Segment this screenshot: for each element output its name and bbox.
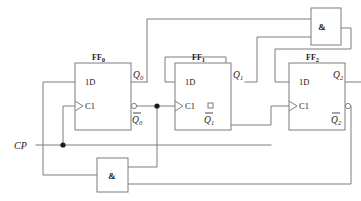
junction-qbar0: [154, 103, 159, 108]
wire-cp-to-ff0-clock: [63, 106, 75, 145]
and-gate-top-body: [311, 8, 341, 45]
and-gate-bottom-symbol: &: [108, 171, 116, 181]
and-gate-top-symbol: &: [318, 22, 326, 32]
ff2-qbar-bubble: [345, 103, 350, 108]
ff1-qbar-bubble: [208, 103, 213, 108]
ff1-body: [175, 63, 231, 130]
ff1-title: FF1: [192, 53, 205, 63]
junction-cp: [60, 142, 65, 147]
circuit-svg: FF0 1D C1 Q0 Q0 FF1 1D C1 Q1 Q1 FF2 1D C…: [0, 0, 361, 201]
ff2-data-pin-label: 1D: [299, 77, 309, 87]
ff1-q-label: Q1: [233, 70, 243, 81]
ff0-body: [75, 63, 131, 130]
ff0-q-label: Q0: [133, 70, 144, 81]
ff0-qbar-label: Q0: [132, 115, 143, 126]
ff1-clock-pin-label: C1: [185, 101, 195, 111]
ff2-title: FF2: [306, 53, 319, 63]
ff2-clock-pin-label: C1: [299, 101, 309, 111]
ff0-title: FF0: [92, 53, 105, 63]
ff0-data-pin-label: 1D: [85, 77, 95, 87]
ff1-data-pin-label: 1D: [185, 77, 195, 87]
circuit-diagram: FF0 1D C1 Q0 Q0 FF1 1D C1 Q1 Q1 FF2 1D C…: [0, 0, 361, 201]
cp-label: CP: [14, 140, 27, 151]
ff0-clock-pin-label: C1: [85, 101, 95, 111]
ff0-qbar-bubble: [131, 103, 136, 108]
